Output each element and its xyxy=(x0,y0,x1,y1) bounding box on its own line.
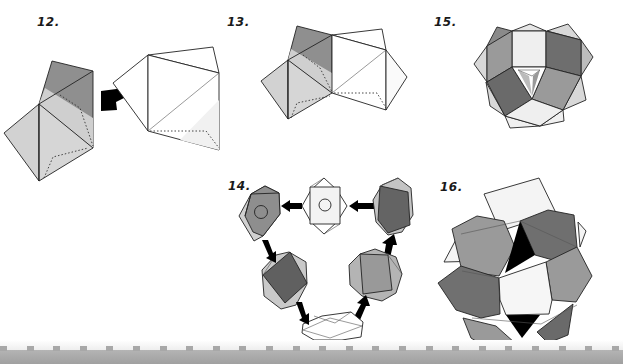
footer-tab xyxy=(266,346,273,351)
figure-14-unit-bottom xyxy=(302,312,363,340)
footer-tab xyxy=(372,346,379,351)
figure-14-unit-right-middle xyxy=(349,249,402,301)
footer-tab xyxy=(0,346,7,351)
figure-15 xyxy=(474,24,593,128)
footer-tab xyxy=(239,346,246,351)
footer-tab xyxy=(53,346,60,351)
footer-tab xyxy=(532,346,539,351)
figure-14-unit-top-center xyxy=(302,178,347,234)
arrow-left-icon xyxy=(281,200,302,212)
footer-tab xyxy=(452,346,459,351)
figure-12-left-unit xyxy=(4,61,93,181)
figure-14-unit-left-middle xyxy=(262,252,307,309)
figure-14-unit-top-left xyxy=(239,186,280,241)
footer-fade xyxy=(0,340,623,350)
diagram-canvas: .ln { stroke: #222; stroke-width: 0.9; s… xyxy=(0,0,623,364)
footer-tab xyxy=(479,346,486,351)
arrow-down-icon xyxy=(296,302,309,325)
figure-14 xyxy=(239,178,413,340)
footer-tab xyxy=(133,346,140,351)
footer-tab xyxy=(293,346,300,351)
footer-tab xyxy=(106,346,113,351)
footer-tab xyxy=(346,346,353,351)
footer-tab xyxy=(186,346,193,351)
page-footer-band xyxy=(0,350,623,364)
figure-12 xyxy=(4,47,219,181)
instruction-page: 12. 13. 15. 14. 16. .ln { stroke: #222; … xyxy=(0,0,623,364)
footer-tab xyxy=(319,346,326,351)
footer-tab xyxy=(612,346,619,351)
footer-tab xyxy=(585,346,592,351)
footer-tab xyxy=(426,346,433,351)
footer-tab xyxy=(559,346,566,351)
footer-tab xyxy=(80,346,87,351)
arrow-left-icon xyxy=(349,200,374,212)
arrow-down-icon xyxy=(262,240,276,263)
figure-16 xyxy=(438,178,592,351)
footer-tab xyxy=(399,346,406,351)
figure-14-unit-top-right xyxy=(373,178,413,235)
figure-12-right-unit xyxy=(113,47,219,150)
footer-tab xyxy=(213,346,220,351)
footer-tab xyxy=(27,346,34,351)
footer-tab xyxy=(160,346,167,351)
figure-13 xyxy=(261,26,407,119)
footer-tab xyxy=(505,346,512,351)
